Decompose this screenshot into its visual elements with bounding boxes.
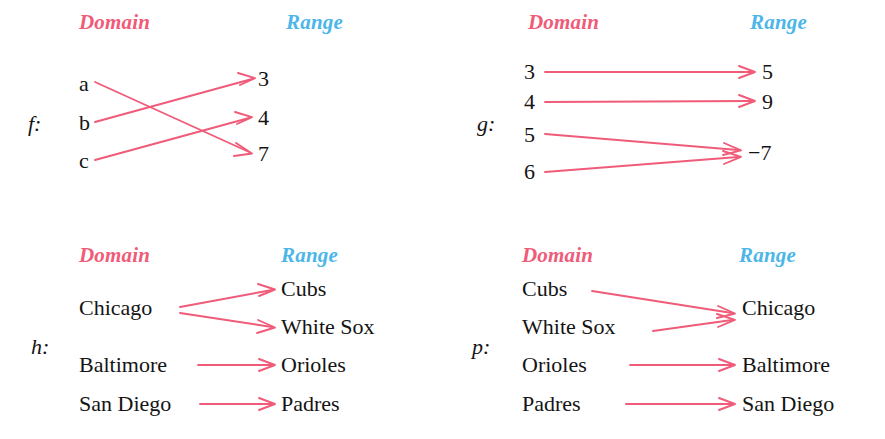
arrow-g-4-to-9 — [545, 95, 755, 107]
header-range-g: Range — [750, 10, 807, 35]
arrow-h-chicago-to-white-sox — [180, 313, 275, 333]
range-node-h-3: Padres — [281, 393, 340, 415]
arrow-f-c-to-4 — [95, 112, 252, 160]
arrow-p-padres-to-san-diego — [626, 398, 735, 410]
range-node-g-2: −7 — [748, 142, 771, 164]
arrow-f-b-to-3 — [95, 73, 255, 122]
domain-node-p-1: White Sox — [522, 316, 616, 338]
domain-node-p-0: Cubs — [522, 278, 567, 300]
domain-node-f-1: b — [79, 112, 90, 134]
domain-node-g-1: 4 — [524, 91, 535, 113]
range-node-f-1: 4 — [258, 107, 269, 129]
header-range-h: Range — [281, 243, 338, 268]
domain-node-p-3: Padres — [522, 393, 581, 415]
range-node-p-0: Chicago — [742, 297, 815, 319]
header-domain-g: Domain — [528, 10, 599, 35]
arrow-group-p — [592, 291, 735, 410]
range-node-g-1: 9 — [762, 91, 773, 113]
header-range-f: Range — [286, 10, 343, 35]
range-node-g-0: 5 — [762, 61, 773, 83]
header-domain-h: Domain — [79, 243, 150, 268]
function-label-g: g: — [477, 111, 495, 137]
arrow-g-6-to-neg7 — [545, 151, 741, 172]
range-node-f-2: 7 — [258, 143, 269, 165]
top-edge-crop-remnant — [528, 0, 533, 4]
header-range-p: Range — [739, 243, 796, 268]
range-node-h-1: White Sox — [281, 316, 375, 338]
domain-node-f-2: c — [79, 150, 89, 172]
header-domain-f: Domain — [79, 10, 150, 35]
domain-node-g-3: 6 — [524, 161, 535, 183]
domain-node-g-2: 5 — [524, 124, 535, 146]
arrow-g-5-to-neg7 — [545, 134, 741, 155]
range-node-h-2: Orioles — [281, 354, 346, 376]
arrow-group-h — [180, 284, 275, 410]
function-label-p: p: — [472, 334, 490, 360]
range-node-p-1: Baltimore — [742, 354, 830, 376]
domain-node-p-2: Orioles — [522, 354, 587, 376]
range-node-p-2: San Diego — [742, 393, 834, 415]
domain-node-f-0: a — [79, 73, 89, 95]
arrow-h-baltimore-to-orioles — [198, 359, 275, 371]
domain-node-h-1: Baltimore — [79, 354, 167, 376]
range-node-f-0: 3 — [258, 68, 269, 90]
function-label-f: f: — [28, 111, 41, 137]
range-node-h-0: Cubs — [281, 278, 326, 300]
arrow-p-orioles-to-baltimore — [630, 359, 735, 371]
function-label-h: h: — [31, 334, 49, 360]
domain-node-g-0: 3 — [524, 61, 535, 83]
arrow-h-chicago-to-cubs — [180, 284, 275, 307]
arrow-p-white-sox-to-chicago — [653, 314, 735, 331]
domain-node-h-0: Chicago — [79, 297, 152, 319]
arrow-g-3-to-5 — [545, 66, 755, 78]
header-domain-p: Domain — [522, 243, 593, 268]
arrow-group-g — [545, 66, 755, 172]
arrow-group-f — [95, 73, 255, 160]
arrow-f-a-to-7 — [95, 82, 252, 156]
domain-node-h-2: San Diego — [79, 393, 171, 415]
arrow-h-san-diego-to-padres — [200, 398, 275, 410]
